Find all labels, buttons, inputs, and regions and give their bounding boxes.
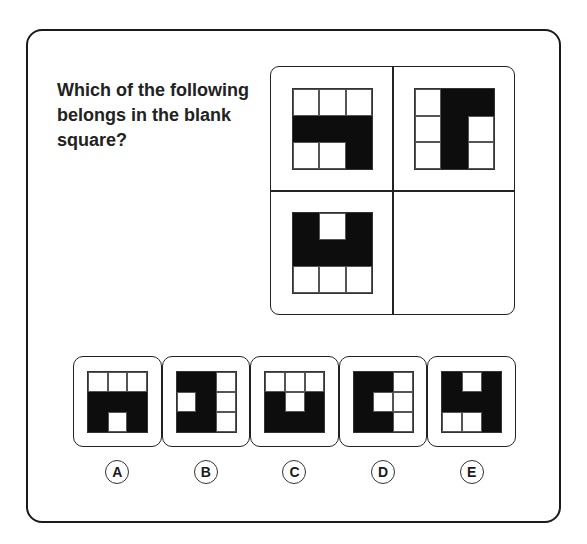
filled-cell <box>354 372 374 392</box>
empty-cell <box>319 213 345 240</box>
pattern-grid <box>292 212 373 294</box>
filled-cell <box>319 116 345 143</box>
puzzle-cell-top-left <box>271 67 392 190</box>
empty-cell <box>285 372 305 392</box>
option-label-a[interactable]: A <box>105 460 129 484</box>
empty-cell <box>216 392 236 412</box>
empty-cell <box>468 116 494 143</box>
option-label-c[interactable]: C <box>282 460 306 484</box>
filled-cell <box>346 213 372 240</box>
filled-cell <box>88 412 108 432</box>
filled-cell <box>441 142 467 169</box>
filled-cell <box>442 392 462 412</box>
filled-cell <box>265 392 285 412</box>
filled-cell <box>293 116 319 143</box>
option-label-e[interactable]: E <box>460 460 484 484</box>
empty-cell <box>415 142 441 169</box>
empty-cell <box>346 266 372 293</box>
empty-cell <box>319 266 345 293</box>
empty-cell <box>285 392 305 412</box>
filled-cell <box>88 392 108 412</box>
empty-cell <box>127 372 147 392</box>
empty-cell <box>305 372 325 392</box>
puzzle-matrix <box>270 66 515 315</box>
empty-cell <box>346 89 372 116</box>
puzzle-cell-top-right <box>393 67 514 190</box>
empty-cell <box>177 392 197 412</box>
empty-cell <box>393 372 413 392</box>
pattern-grid <box>414 88 495 170</box>
filled-cell <box>319 240 345 267</box>
pattern-grid <box>176 371 237 433</box>
filled-cell <box>265 412 285 432</box>
option-labels: A B C D E <box>73 460 516 486</box>
pattern-grid <box>87 371 148 433</box>
empty-cell <box>442 412 462 432</box>
filled-cell <box>293 213 319 240</box>
filled-cell <box>462 392 482 412</box>
pattern-grid <box>353 371 414 433</box>
empty-cell <box>216 372 236 392</box>
option-d[interactable] <box>339 356 428 447</box>
puzzle-cell-bottom-left <box>271 191 392 314</box>
filled-cell <box>285 412 305 432</box>
empty-cell <box>293 89 319 116</box>
empty-cell <box>415 89 441 116</box>
pattern-grid <box>441 371 502 433</box>
empty-cell <box>265 372 285 392</box>
filled-cell <box>196 372 216 392</box>
empty-cell <box>415 116 441 143</box>
empty-cell <box>108 412 128 432</box>
filled-cell <box>305 412 325 432</box>
horizontal-divider <box>271 190 514 192</box>
filled-cell <box>354 412 374 432</box>
answer-options <box>73 356 516 448</box>
filled-cell <box>127 392 147 412</box>
filled-cell <box>346 116 372 143</box>
option-a[interactable] <box>73 356 162 447</box>
filled-cell <box>293 240 319 267</box>
empty-cell <box>293 142 319 169</box>
filled-cell <box>482 412 502 432</box>
pattern-grid <box>292 88 373 170</box>
empty-cell <box>373 392 393 412</box>
empty-cell <box>462 412 482 432</box>
filled-cell <box>354 392 374 412</box>
filled-cell <box>482 372 502 392</box>
filled-cell <box>305 392 325 412</box>
empty-cell <box>88 372 108 392</box>
filled-cell <box>441 116 467 143</box>
empty-cell <box>293 266 319 293</box>
filled-cell <box>441 89 467 116</box>
filled-cell <box>346 142 372 169</box>
pattern-grid <box>264 371 325 433</box>
filled-cell <box>177 412 197 432</box>
option-b[interactable] <box>162 356 251 447</box>
empty-cell <box>319 89 345 116</box>
empty-cell <box>216 412 236 432</box>
filled-cell <box>196 412 216 432</box>
empty-cell <box>108 372 128 392</box>
filled-cell <box>373 372 393 392</box>
empty-cell <box>462 372 482 392</box>
empty-cell <box>393 412 413 432</box>
filled-cell <box>346 240 372 267</box>
empty-cell <box>319 142 345 169</box>
filled-cell <box>373 412 393 432</box>
empty-cell <box>468 142 494 169</box>
empty-cell <box>393 392 413 412</box>
option-label-b[interactable]: B <box>194 460 218 484</box>
puzzle-cell-blank <box>393 191 514 314</box>
filled-cell <box>108 392 128 412</box>
option-e[interactable] <box>427 356 516 447</box>
filled-cell <box>482 392 502 412</box>
filled-cell <box>442 372 462 392</box>
filled-cell <box>468 89 494 116</box>
filled-cell <box>196 392 216 412</box>
option-label-d[interactable]: D <box>371 460 395 484</box>
filled-cell <box>127 412 147 432</box>
option-c[interactable] <box>250 356 339 447</box>
filled-cell <box>177 372 197 392</box>
question-text: Which of the following belongs in the bl… <box>57 78 257 153</box>
